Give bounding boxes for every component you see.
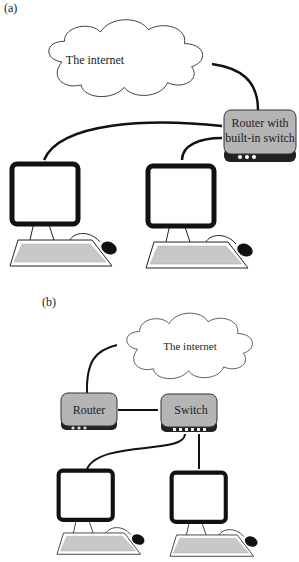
panel-a-label: (a) <box>4 1 17 15</box>
network-diagram: (a) The internet Router with built-in sw… <box>0 0 299 562</box>
computer-icon <box>57 471 146 555</box>
computer-icon <box>170 473 259 557</box>
switch-to-pc1-cable <box>87 434 185 469</box>
internet-to-router-cable <box>87 345 117 394</box>
cloud-label: The internet <box>66 53 125 67</box>
internet-to-router-cable <box>212 64 258 110</box>
router-to-pc2-cable <box>182 138 222 160</box>
panel-a: (a) The internet Router with built-in sw… <box>4 1 296 268</box>
router-label: Router <box>73 403 106 417</box>
panel-b-label: (b) <box>42 295 56 309</box>
computer-icon <box>146 166 255 268</box>
router-label-line1: Router with <box>232 116 289 130</box>
computer-icon <box>10 164 119 266</box>
router-label-line2: built-in switch <box>225 131 295 145</box>
switch-label: Switch <box>174 403 207 417</box>
panel-b: (b) The internet Router <box>42 295 259 556</box>
cloud-label: The internet <box>163 340 216 352</box>
